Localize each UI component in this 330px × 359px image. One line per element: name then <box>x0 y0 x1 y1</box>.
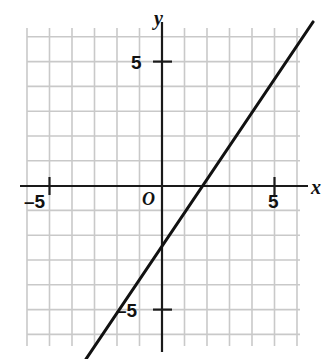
y-axis-tick-label-positive-five: 5 <box>131 53 142 72</box>
x-axis-label: x <box>311 177 321 197</box>
origin-label: O <box>142 190 155 208</box>
graph-canvas <box>0 0 330 359</box>
x-axis-tick-label-negative-five: –5 <box>24 192 45 211</box>
x-axis-tick-label-positive-five: 5 <box>268 192 279 211</box>
y-axis-label: y <box>154 8 163 28</box>
y-axis-tick-label-negative-five: –5 <box>116 301 137 320</box>
coordinate-graph-figure: –5 5 5 –5 x y O <box>0 0 330 359</box>
